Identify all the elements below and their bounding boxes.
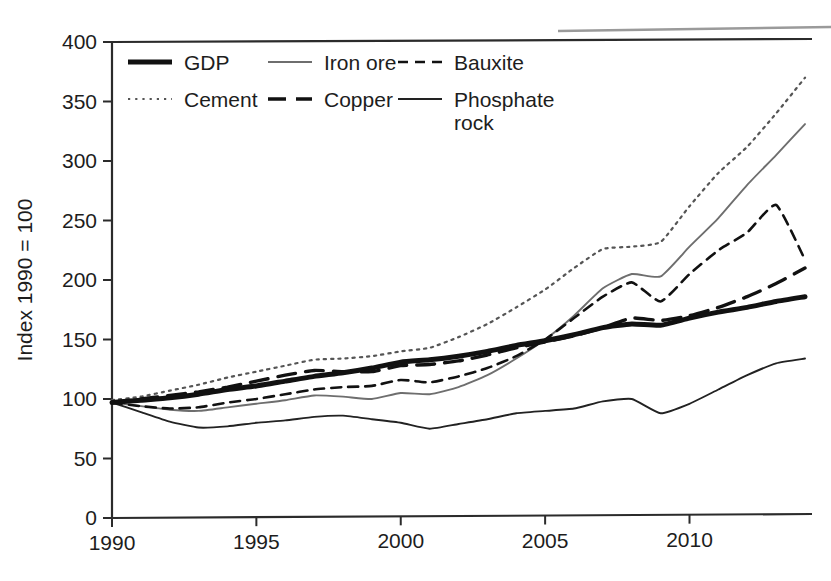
legend-label-bauxite: Bauxite xyxy=(454,51,524,74)
x-tick-label: 1990 xyxy=(89,531,136,554)
y-tick-label: 50 xyxy=(74,447,97,470)
chart-figure: 050100150200250300350400 199019952000200… xyxy=(0,0,831,581)
series-line-copper xyxy=(112,268,805,402)
legend-label-copper: Copper xyxy=(324,88,393,111)
line-chart: 050100150200250300350400 199019952000200… xyxy=(0,0,831,581)
top-rule xyxy=(558,27,831,31)
legend-label-cement: Cement xyxy=(184,88,258,111)
y-tick-label: 200 xyxy=(62,268,97,291)
legend-label-phosphate-rock-line2: rock xyxy=(454,111,494,134)
y-tick-label: 100 xyxy=(62,387,97,410)
x-tick-label: 2005 xyxy=(522,529,569,552)
legend-label-phosphate-rock: Phosphate xyxy=(454,88,554,111)
legend-label-gdp: GDP xyxy=(184,51,230,74)
y-tick-label: 400 xyxy=(62,30,97,53)
plot-top-border xyxy=(112,39,812,42)
y-tick-label: 0 xyxy=(85,506,97,529)
y-tick-label: 350 xyxy=(62,90,97,113)
legend-label-iron-ore: Iron ore xyxy=(324,51,396,74)
y-tick-label: 300 xyxy=(62,149,97,172)
y-tick-label: 150 xyxy=(62,328,97,351)
y-tick-group: 050100150200250300350400 xyxy=(62,30,112,529)
chart-legend: GDPIron oreBauxiteCementCopperPhosphater… xyxy=(128,51,554,134)
series-line-iron-ore xyxy=(112,124,805,411)
x-tick-label: 1995 xyxy=(233,530,280,553)
y-axis-title: Index 1990 = 100 xyxy=(13,199,36,362)
x-tick-group: 19901995200020052010 xyxy=(89,515,713,554)
x-axis-line xyxy=(112,514,812,518)
x-tick-label: 2010 xyxy=(666,528,713,551)
x-tick-label: 2000 xyxy=(377,529,424,552)
y-tick-label: 250 xyxy=(62,209,97,232)
